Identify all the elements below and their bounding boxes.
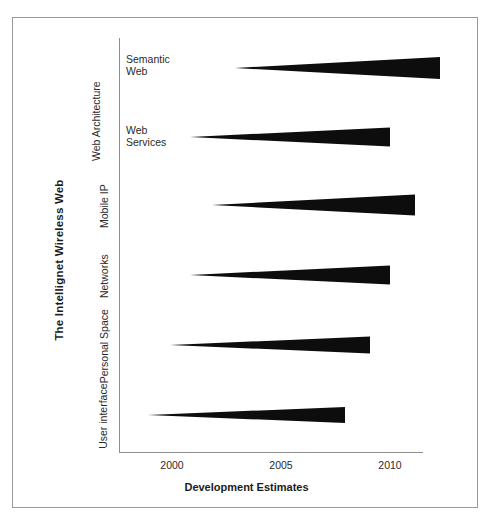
category-label-semantic-web: Semantic Web [126, 53, 170, 78]
category-label-mobile-ip: Mobile IP [88, 176, 120, 236]
group-label-web-architecture: Web Architecture [78, 46, 114, 196]
x-axis-line [119, 452, 423, 453]
category-label-web-services: Web Services [126, 124, 166, 149]
category-label-text: Mobile IP [98, 184, 110, 228]
category-label-text: Personal Space [98, 309, 110, 383]
x-tick-label: 2000 [160, 459, 183, 471]
category-label-text: User interface [98, 383, 110, 448]
category-label-networks: Networks [90, 246, 118, 306]
y-axis-line [119, 38, 120, 452]
x-axis-title: Development Estimates [0, 481, 493, 493]
y-axis-title: The Intellignet Wireless Web [44, 150, 74, 370]
category-label-text: Networks [98, 254, 110, 298]
group-label-text: Web Architecture [90, 81, 102, 161]
category-label-personal-space: Personal Space [88, 316, 120, 376]
category-label-user-interface: User interface [88, 386, 120, 446]
x-tick-label: 2010 [378, 459, 401, 471]
figure-canvas: The Intellignet Wireless Web Web Archite… [0, 0, 493, 528]
x-tick-label: 2005 [269, 459, 292, 471]
y-axis-title-text: The Intellignet Wireless Web [53, 179, 65, 340]
